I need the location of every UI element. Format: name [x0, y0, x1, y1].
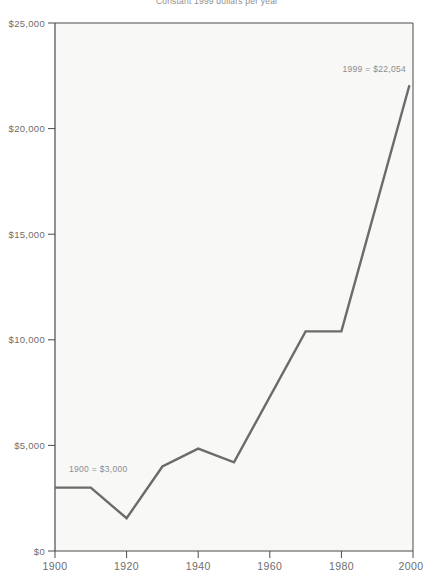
y-tick-label-15000: $15,000 — [9, 229, 45, 240]
annotation-end-value: 1999 = $22,054 — [342, 64, 406, 74]
x-tick-label-1920: 1920 — [114, 560, 139, 572]
x-tick-label-1960: 1960 — [257, 560, 282, 572]
annotation-start-value: 1900 = $3,000 — [69, 464, 128, 474]
y-tick-label-20000: $20,000 — [9, 123, 45, 134]
x-tick-label-2000: 2000 — [399, 560, 424, 572]
x-axis-labels: 1900 1920 1940 1960 1980 2000 — [43, 560, 424, 572]
y-tick-marks — [48, 23, 55, 551]
x-tick-marks — [55, 551, 413, 558]
y-tick-label-25000: $25,000 — [9, 18, 45, 29]
x-tick-label-1940: 1940 — [186, 560, 211, 572]
y-tick-label-0: $0 — [34, 546, 45, 557]
x-tick-label-1900: 1900 — [43, 560, 68, 572]
y-tick-label-10000: $10,000 — [9, 334, 45, 345]
x-tick-label-1980: 1980 — [329, 560, 354, 572]
y-tick-label-5000: $5,000 — [14, 440, 45, 451]
chart-container: Constant 1999 dollars per year $0 $5,000… — [0, 0, 434, 587]
line-chart-plot: $0 $5,000 $10,000 $15,000 $20,000 $25,00… — [0, 0, 434, 587]
y-axis-labels: $0 $5,000 $10,000 $15,000 $20,000 $25,00… — [9, 18, 45, 557]
